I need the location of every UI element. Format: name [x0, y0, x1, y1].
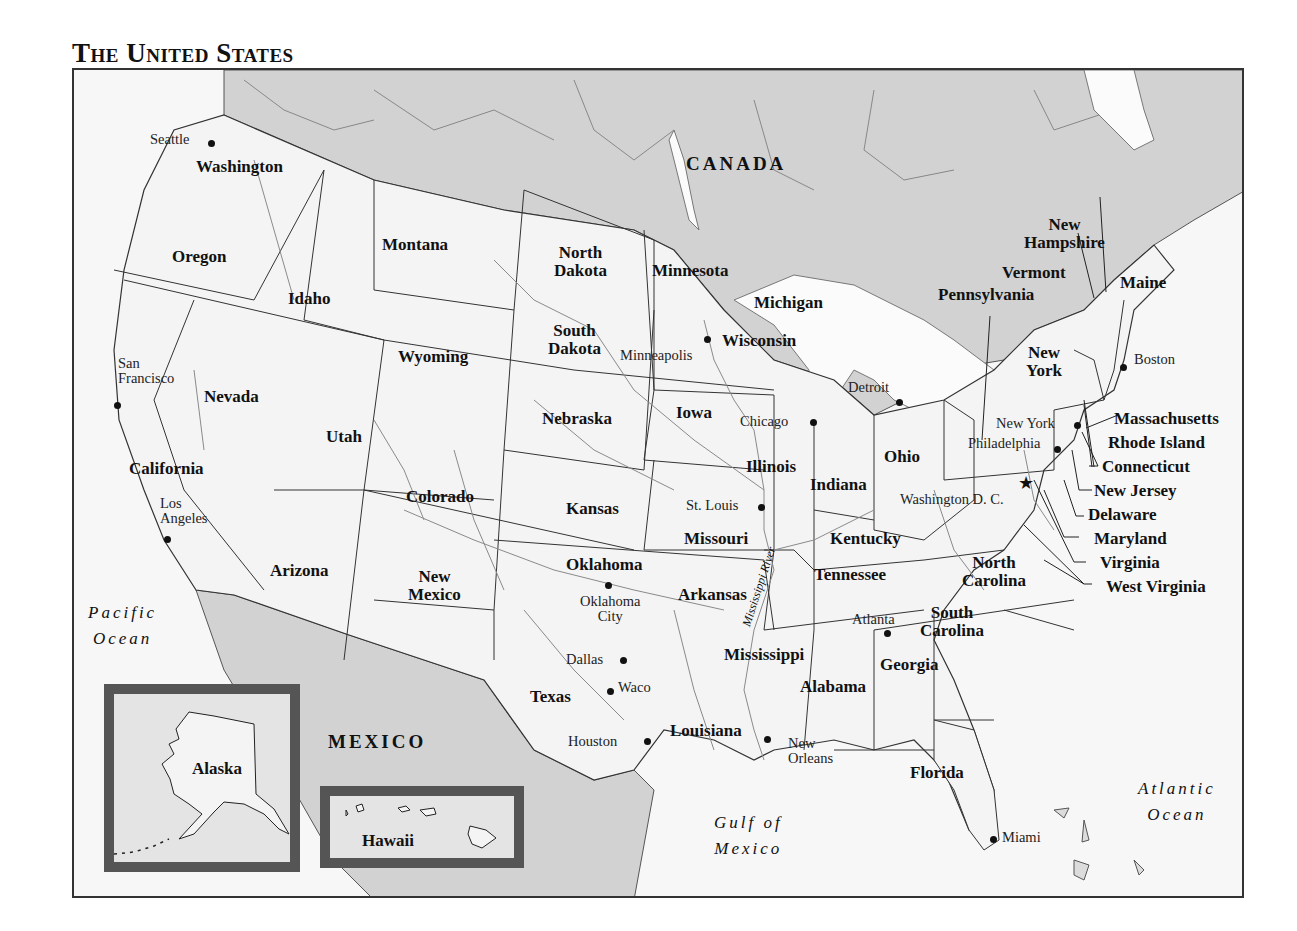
- state-label-maryland: Maryland: [1094, 530, 1167, 547]
- state-label-ohio: Ohio: [884, 448, 920, 465]
- city-dot-chicago: [810, 419, 817, 426]
- state-label-louisiana: Louisiana: [670, 722, 742, 739]
- city-label-waco: Waco: [618, 680, 651, 695]
- state-label-pennsylvania: Pennsylvania: [938, 286, 1034, 303]
- city-label-chicago: Chicago: [740, 414, 788, 429]
- state-label-oregon: Oregon: [172, 248, 226, 265]
- state-label-california: California: [129, 460, 204, 477]
- state-label-oklahoma: Oklahoma: [566, 556, 643, 573]
- state-label-wisconsin: Wisconsin: [722, 332, 796, 349]
- state-label-new-mexico: New Mexico: [408, 568, 461, 604]
- city-dot-los-angeles: [164, 536, 171, 543]
- state-label-colorado: Colorado: [406, 488, 474, 505]
- state-label-vermont: Vermont: [1002, 264, 1066, 281]
- city-dot-new-york: [1074, 422, 1081, 429]
- city-label-seattle: Seattle: [150, 132, 189, 147]
- city-dot-new-orleans: [764, 736, 771, 743]
- city-dot-detroit: [896, 399, 903, 406]
- state-label-alabama: Alabama: [800, 678, 866, 695]
- country-label-mexico: MEXICO: [328, 732, 426, 751]
- city-dot-minneapolis: [704, 336, 711, 343]
- state-label-georgia: Georgia: [880, 656, 939, 673]
- city-label-houston: Houston: [568, 734, 617, 749]
- state-label-texas: Texas: [530, 688, 571, 705]
- city-dot-waco: [607, 688, 614, 695]
- state-label-utah: Utah: [326, 428, 362, 445]
- state-label-south-carolina: South Carolina: [920, 604, 984, 640]
- pacific-ocean-label: Pacific Ocean: [88, 600, 157, 651]
- map-frame: CANADA MEXICO Pacific Ocean Atlantic Oce…: [72, 68, 1244, 898]
- city-dot-philadelphia: [1054, 446, 1061, 453]
- city-label-miami: Miami: [1002, 830, 1041, 845]
- city-label-dallas: Dallas: [566, 652, 603, 667]
- city-label-st-louis: St. Louis: [686, 498, 738, 513]
- florida-peninsula: [934, 720, 999, 850]
- state-label-new-hampshire: New Hampshire: [1024, 216, 1105, 252]
- state-label-florida: Florida: [910, 764, 964, 781]
- state-label-hawaii: Hawaii: [362, 832, 414, 849]
- state-label-arizona: Arizona: [270, 562, 329, 579]
- state-label-nevada: Nevada: [204, 388, 259, 405]
- city-dot-boston: [1120, 364, 1127, 371]
- map-title: The United States: [72, 38, 294, 69]
- alaska-inset: Alaska: [104, 684, 300, 872]
- state-label-nebraska: Nebraska: [542, 410, 612, 427]
- state-label-tennessee: Tennessee: [814, 566, 886, 583]
- state-label-iowa: Iowa: [676, 404, 712, 421]
- state-label-indiana: Indiana: [810, 476, 867, 493]
- state-label-new-jersey: New Jersey: [1094, 482, 1177, 499]
- city-dot-atlanta: [884, 630, 891, 637]
- state-label-north-dakota: North Dakota: [554, 244, 607, 280]
- state-label-missouri: Missouri: [684, 530, 748, 547]
- city-dot-dallas: [620, 657, 627, 664]
- state-label-wyoming: Wyoming: [398, 348, 468, 365]
- state-label-virginia: Virginia: [1100, 554, 1160, 571]
- state-label-mississippi: Mississippi: [724, 646, 804, 663]
- city-label-los-angeles: Los Angeles: [160, 496, 208, 526]
- state-label-kentucky: Kentucky: [830, 530, 901, 547]
- state-label-massachusetts: Massachusetts: [1114, 410, 1219, 427]
- alaska-shape: [114, 694, 290, 862]
- state-label-illinois: Illinois: [746, 458, 796, 475]
- state-label-alaska: Alaska: [192, 760, 242, 777]
- city-label-minneapolis: Minneapolis: [620, 348, 693, 363]
- state-label-new-york: New York: [1026, 344, 1062, 380]
- state-label-arkansas: Arkansas: [678, 586, 747, 603]
- city-dot-oklahoma-city: [605, 582, 612, 589]
- gulf-of-mexico-label: Gulf of Mexico: [714, 810, 783, 861]
- hawaii-inset: Hawaii: [320, 786, 524, 868]
- city-dot-houston: [644, 738, 651, 745]
- city-label-new-york: New York: [996, 416, 1055, 431]
- city-label-washington-dc: Washington D. C.: [900, 492, 1004, 507]
- city-label-philadelphia: Philadelphia: [968, 436, 1041, 451]
- city-label-san-francisco: San Francisco: [118, 356, 174, 386]
- state-label-delaware: Delaware: [1088, 506, 1157, 523]
- state-label-montana: Montana: [382, 236, 448, 253]
- state-label-washington: Washington: [196, 158, 283, 175]
- state-label-minnesota: Minnesota: [652, 262, 729, 279]
- hawaii-shape: [330, 796, 514, 858]
- capital-star-icon: ★: [1018, 474, 1034, 492]
- state-label-kansas: Kansas: [566, 500, 619, 517]
- caribbean-islands: [1054, 808, 1144, 880]
- city-label-new-orleans: New Orleans: [788, 736, 833, 766]
- state-label-maine: Maine: [1120, 274, 1166, 291]
- atlantic-ocean-label: Atlantic Ocean: [1138, 776, 1216, 827]
- state-label-connecticut: Connecticut: [1102, 458, 1190, 475]
- city-dot-miami: [990, 836, 997, 843]
- city-label-detroit: Detroit: [848, 380, 889, 395]
- state-label-rhode-island: Rhode Island: [1108, 434, 1205, 451]
- country-label-canada: CANADA: [686, 154, 786, 173]
- state-label-north-carolina: North Carolina: [962, 554, 1026, 590]
- city-dot-san-francisco: [114, 402, 121, 409]
- city-dot-seattle: [208, 140, 215, 147]
- state-label-idaho: Idaho: [288, 290, 331, 307]
- city-label-boston: Boston: [1134, 352, 1175, 367]
- city-label-atlanta: Atlanta: [852, 612, 895, 627]
- city-label-oklahoma-city: Oklahoma City: [580, 594, 640, 624]
- state-label-michigan: Michigan: [754, 294, 823, 311]
- state-label-west-virginia: West Virginia: [1106, 578, 1206, 595]
- state-label-south-dakota: South Dakota: [548, 322, 601, 358]
- city-dot-st-louis: [758, 504, 765, 511]
